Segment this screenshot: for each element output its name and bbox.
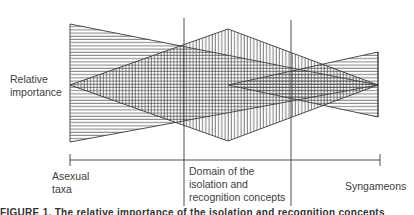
figure-caption: FIGURE 1. The relative importance of the… [0, 207, 385, 215]
x-axis-right-label: Syngameons [345, 180, 406, 193]
x-axis-center-label: Domain of the isolation and recognition … [189, 165, 285, 204]
y-axis-label: Relative importance [10, 73, 62, 99]
x-axis-left-label: Asexual taxa [52, 170, 89, 196]
